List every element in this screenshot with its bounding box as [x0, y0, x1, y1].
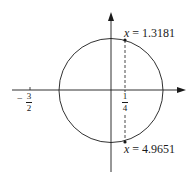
label-top-value: 1.3181	[142, 26, 175, 40]
label-bottom-eq: =	[129, 142, 142, 156]
label-bottom-value: 4.9651	[142, 142, 175, 156]
x-axis-arrow-icon	[177, 87, 186, 93]
tick-label-right-denominator: 4	[123, 104, 128, 113]
x-axis	[12, 87, 186, 93]
y-axis	[108, 12, 114, 172]
tick-label-left-sign: −	[17, 94, 23, 104]
tick-label-left-numerator: 3	[27, 92, 32, 101]
label-top-point: x = 1.3181	[124, 27, 175, 39]
tick-label-left-fraction: 3 2	[26, 92, 32, 113]
tick-label-right-fraction: 1 4	[122, 92, 128, 113]
label-bottom-point: x = 4.9651	[124, 143, 175, 155]
y-axis-arrow-icon	[108, 12, 114, 21]
tick-label-right-numerator: 1	[123, 92, 128, 101]
label-top-eq: =	[129, 26, 142, 40]
tick-label-left-denominator: 2	[27, 104, 32, 113]
